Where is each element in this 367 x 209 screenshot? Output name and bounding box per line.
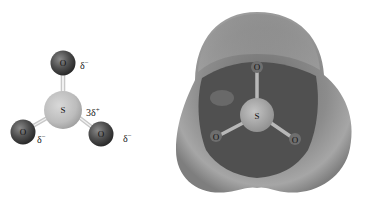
atom-label-sulfur: S xyxy=(60,106,65,115)
atom-label-oxygen-bottom-left: O xyxy=(20,128,27,137)
atom-label-oxygen-top: O xyxy=(60,59,67,68)
diagram-canvas: O S O O δ− 3δ+ δ− δ− O S O O xyxy=(0,0,367,209)
molecule-figure xyxy=(0,0,367,209)
map-label-oxygen-bottom-right: O xyxy=(292,136,299,145)
map-label-oxygen-top: O xyxy=(254,63,261,72)
map-label-oxygen-bottom-left: O xyxy=(213,133,220,142)
surface-shading xyxy=(210,90,234,106)
partial-charge-sulfur: 3δ+ xyxy=(86,105,100,118)
partial-charge-oxygen-bottom-right: δ− xyxy=(123,131,132,144)
map-label-sulfur: S xyxy=(254,112,259,121)
atom-label-oxygen-bottom-right: O xyxy=(98,130,105,139)
partial-charge-oxygen-bottom-left: δ− xyxy=(37,132,46,145)
electrostatic-potential-map xyxy=(176,12,352,193)
partial-charge-oxygen-top: δ− xyxy=(80,58,89,71)
